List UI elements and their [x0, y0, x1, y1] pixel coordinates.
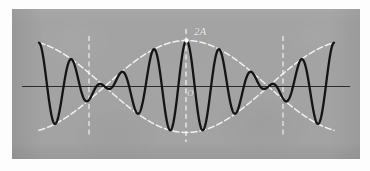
figure-root: 2A O	[0, 0, 370, 171]
photographic-plate: 2A O	[12, 9, 360, 159]
amplitude-label: 2A	[194, 26, 206, 37]
antinode-marker-dot	[184, 38, 188, 42]
beats-waveform-chart	[12, 9, 360, 159]
origin-label: O	[187, 89, 194, 98]
